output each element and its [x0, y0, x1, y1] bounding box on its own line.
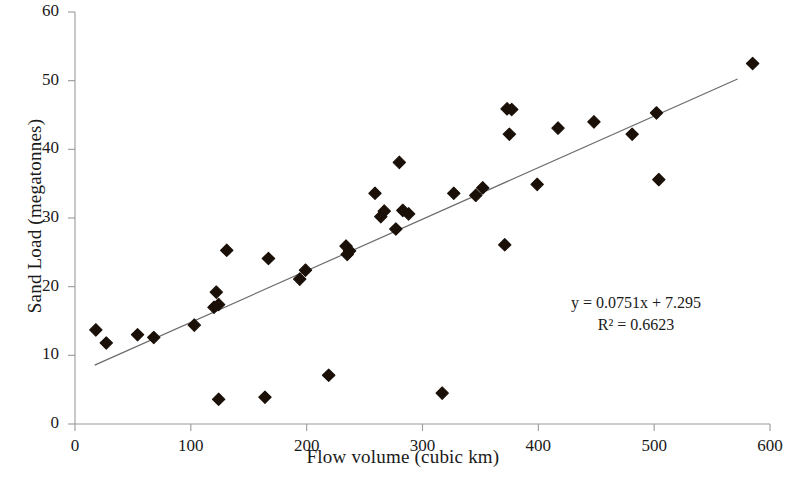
data-point [322, 369, 334, 381]
data-point [212, 393, 224, 405]
y-axis-title: Sand Load (megatonnes) [24, 119, 45, 313]
data-point [626, 128, 638, 140]
y-axis-tick-label: 60 [19, 1, 59, 21]
data-point [131, 329, 143, 341]
regression-equation: y = 0.0751x + 7.295 [536, 292, 736, 314]
data-point [552, 122, 564, 134]
regression-annotation: y = 0.0751x + 7.295 R² = 0.6623 [536, 292, 736, 335]
data-point [262, 252, 274, 264]
data-point [588, 116, 600, 128]
data-point [531, 178, 543, 190]
data-point [210, 286, 222, 298]
data-point [100, 337, 112, 349]
y-axis-title-wrapper: Sand Load (megatonnes) [24, 66, 46, 366]
data-point [499, 239, 511, 251]
r-squared-value: R² = 0.6623 [536, 314, 736, 336]
scatter-chart: 0102030405060 0100200300400500600 Flow v… [0, 0, 806, 477]
data-point [90, 324, 102, 336]
data-point [369, 187, 381, 199]
axes-layer [68, 12, 770, 431]
data-point [448, 187, 460, 199]
data-point [503, 128, 515, 140]
y-axis-tick-label: 0 [19, 413, 59, 433]
data-point [259, 391, 271, 403]
data-point [746, 57, 758, 69]
data-point [188, 319, 200, 331]
data-points-layer [90, 57, 759, 405]
data-point [393, 156, 405, 168]
x-axis-title: Flow volume (cubic km) [0, 446, 806, 468]
data-point [436, 387, 448, 399]
data-point [148, 331, 160, 343]
plot-canvas [0, 0, 806, 477]
data-point [221, 244, 233, 256]
data-point [653, 173, 665, 185]
